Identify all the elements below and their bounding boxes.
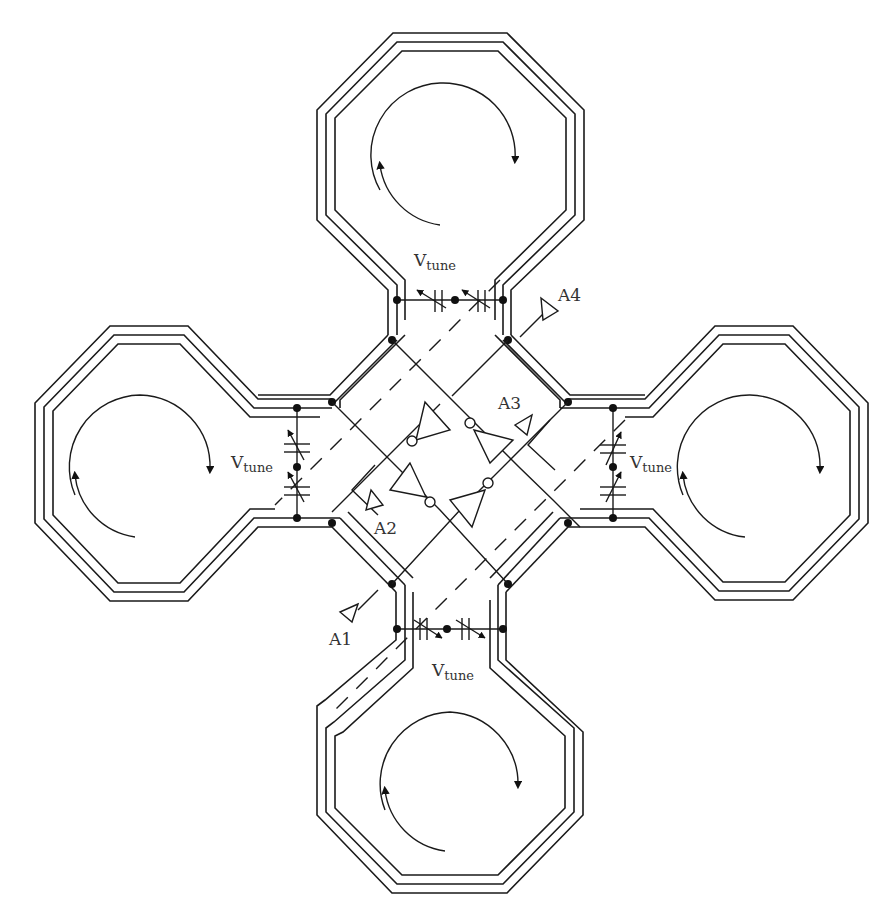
- antenna-label-a1: A1: [329, 629, 352, 649]
- junction-dots: [328, 336, 572, 588]
- antenna-a1: [340, 590, 378, 622]
- vtune-sub: tune: [243, 460, 273, 475]
- vtune-label-right: Vtune: [630, 452, 672, 475]
- qvco-diagram: Vtune Vtune Vtune Vtune A1 A2 A3 A4: [0, 0, 895, 919]
- vtune-symbol: V: [432, 660, 444, 680]
- vtune-label-top: Vtune: [414, 250, 456, 273]
- circuit-drawing: [0, 0, 895, 919]
- vtune-label-bottom: Vtune: [432, 660, 474, 683]
- dashed-coupling-lines: [275, 280, 625, 715]
- current-arrows: [69, 83, 820, 851]
- inverter-2: [465, 418, 513, 463]
- antenna-label-a3: A3: [498, 393, 521, 413]
- antenna-label-a2: A2: [374, 518, 397, 538]
- vtune-sub: tune: [444, 668, 474, 683]
- antenna-a2: [352, 465, 383, 515]
- vtune-symbol: V: [231, 452, 243, 472]
- vtune-symbol: V: [630, 452, 642, 472]
- antenna-a4: [520, 298, 558, 337]
- top-inductor: [317, 33, 584, 335]
- antenna-label-a4: A4: [558, 285, 581, 305]
- right-varactor-pair: [600, 404, 626, 522]
- vtune-label-left: Vtune: [231, 452, 273, 475]
- left-inductor: [35, 326, 340, 601]
- inverter-4: [450, 478, 493, 527]
- inverter-1: [407, 402, 450, 446]
- vtune-sub: tune: [426, 258, 456, 273]
- top-varactor-pair: [393, 290, 507, 312]
- antenna-a3: [515, 415, 555, 470]
- inverter-3: [390, 463, 435, 507]
- vtune-symbol: V: [414, 250, 426, 270]
- left-varactor-pair: [284, 404, 310, 522]
- vtune-sub: tune: [642, 460, 672, 475]
